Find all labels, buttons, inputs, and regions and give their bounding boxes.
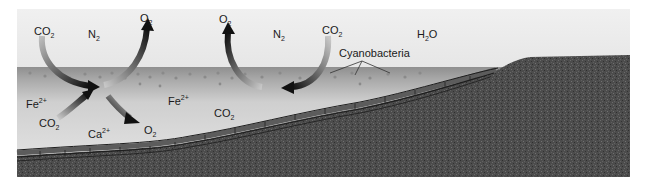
label-text: H bbox=[417, 28, 425, 40]
label-sup: 2+ bbox=[181, 94, 189, 101]
label-text: O bbox=[140, 12, 149, 24]
label-cyanobacteria: Cyanobacteria bbox=[339, 48, 410, 59]
label-text: O bbox=[219, 13, 228, 25]
label-text: CO bbox=[322, 24, 339, 36]
label-sup: 2+ bbox=[102, 127, 110, 134]
label-sup: 2+ bbox=[39, 97, 47, 104]
label-text-tail: O bbox=[429, 28, 438, 40]
label-co2-water-mid: CO2 bbox=[214, 108, 234, 121]
label-text: O bbox=[144, 124, 153, 136]
label-sub: 2 bbox=[281, 35, 285, 42]
label-text: Fe bbox=[26, 98, 39, 110]
label-text: CO bbox=[39, 117, 56, 129]
label-text: CO bbox=[34, 25, 51, 37]
label-sub: 2 bbox=[228, 20, 232, 27]
label-o2-air-left: O2 bbox=[140, 13, 152, 26]
label-sub: 2 bbox=[231, 114, 235, 121]
label-text: N bbox=[88, 28, 96, 40]
label-n2-left: N2 bbox=[88, 29, 100, 42]
label-co2-air-left: CO2 bbox=[34, 26, 54, 39]
label-n2-mid: N2 bbox=[273, 29, 285, 42]
label-ca: Ca2+ bbox=[88, 127, 110, 140]
label-text: Ca bbox=[88, 128, 102, 140]
label-sub: 2 bbox=[56, 124, 60, 131]
label-sub: 2 bbox=[339, 31, 343, 38]
label-sub: 2 bbox=[51, 32, 55, 39]
label-co2-water-left: CO2 bbox=[39, 118, 59, 131]
label-co2-air-mid: CO2 bbox=[322, 25, 342, 38]
label-text: Fe bbox=[168, 95, 181, 107]
label-o2-water: O2 bbox=[144, 125, 156, 138]
label-sub: 2 bbox=[96, 35, 100, 42]
label-h2o: H2O bbox=[417, 29, 437, 42]
label-o2-air-mid: O2 bbox=[219, 14, 231, 27]
label-sub: 2 bbox=[153, 131, 157, 138]
label-fe-mid: Fe2+ bbox=[168, 94, 189, 107]
label-sub: 2 bbox=[149, 19, 153, 26]
label-text: N bbox=[273, 28, 281, 40]
label-text: CO bbox=[214, 107, 231, 119]
label-fe-left: Fe2+ bbox=[26, 97, 47, 110]
